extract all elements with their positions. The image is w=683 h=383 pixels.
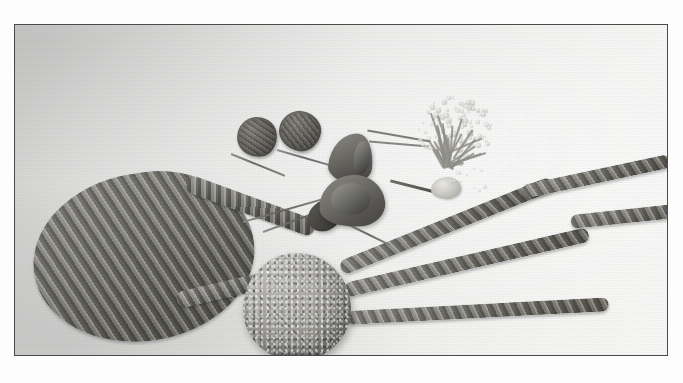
stem-mid-tail: [570, 203, 668, 229]
spray-floret: [476, 120, 480, 124]
spray-floret: [484, 136, 486, 138]
spray-floret-stray: [480, 169, 483, 172]
spray-floret: [418, 138, 423, 143]
spray-floret-stray: [483, 185, 487, 189]
spray-floret-stray: [460, 181, 462, 183]
spray-floret-stray: [478, 189, 481, 192]
rose-bud-right: [276, 108, 324, 155]
spray-floret-stray: [466, 174, 468, 176]
spray-floret: [468, 120, 472, 124]
rose-bud-left: [234, 114, 279, 159]
spray-floret: [487, 126, 491, 130]
teardrop-loop: [33, 173, 263, 335]
spray-floret: [436, 108, 441, 113]
spray-floret: [424, 145, 429, 150]
spray-floret: [467, 110, 470, 113]
spray-floret: [427, 136, 431, 140]
spray-floret: [447, 96, 451, 100]
spray-floret-stray: [452, 179, 455, 182]
page-canvas: [0, 0, 683, 383]
spray-floret-stray: [473, 187, 475, 189]
foam-ball: [243, 253, 351, 356]
spray-floret: [470, 125, 473, 128]
spray-floret: [430, 105, 435, 110]
spray-floret: [418, 129, 420, 131]
spray-floret: [464, 104, 469, 109]
spray-floret: [446, 109, 448, 111]
spray-floret: [463, 119, 468, 124]
teardrop-loop-ring: [21, 157, 267, 356]
stem-low: [347, 297, 609, 325]
spray-floret: [460, 109, 464, 113]
spray-floret: [424, 131, 427, 134]
spray-floret-stray: [473, 168, 475, 170]
figure-photo-frame: [14, 24, 668, 356]
stem-top-tail: [522, 154, 668, 199]
spray-floret: [422, 122, 424, 124]
spray-base: [431, 177, 461, 199]
photo-scene: [15, 25, 667, 355]
stem-mid: [343, 227, 590, 298]
spray-floret: [463, 122, 468, 127]
spray-floret: [476, 143, 481, 148]
spray-floret: [451, 96, 454, 99]
gypsophila-spray: [409, 91, 513, 199]
spray-floret: [486, 142, 490, 146]
spray-floret: [448, 117, 452, 121]
spray-floret: [442, 100, 447, 105]
spray-floret: [481, 112, 486, 117]
spray-floret: [433, 102, 435, 104]
spray-floret-stray: [456, 171, 460, 175]
